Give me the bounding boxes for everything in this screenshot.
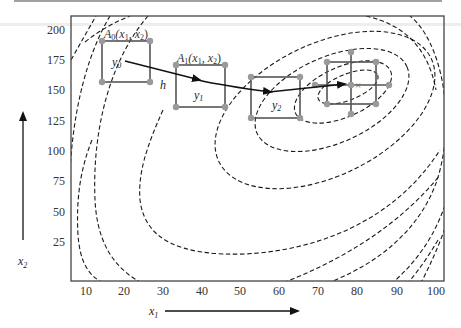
contour-4 [190, 0, 460, 221]
y-axis-ticks: 200 175 150 125 100 75 50 25 [47, 23, 65, 249]
x-axis-ticks: 10 20 30 40 50 60 70 80 90 100 [80, 284, 445, 298]
y-tick: 50 [53, 205, 65, 219]
contour-left [78, 140, 103, 283]
contour-mid-left [140, 110, 440, 254]
contour-3 [240, 27, 425, 172]
label-step-h: h [160, 78, 166, 92]
y-tick: 100 [47, 144, 65, 158]
contour-8 [420, 228, 445, 285]
contour-lower-right [277, 175, 440, 285]
y-tick: 25 [53, 235, 65, 249]
y-tick: 125 [47, 114, 65, 128]
x-tick: 100 [427, 284, 445, 298]
contour-9 [71, 16, 96, 60]
y-axis-label: x2 [17, 254, 27, 270]
y-tick: 200 [47, 23, 65, 37]
x-tick: 30 [157, 284, 169, 298]
x-tick: 80 [351, 284, 363, 298]
label-a0: A0(x1, x2) [103, 27, 148, 42]
x-tick: 40 [196, 284, 208, 298]
label-y2: y2 [271, 98, 281, 113]
contour-5 [95, 16, 446, 300]
y-tick: 75 [53, 174, 65, 188]
search-box-a3 [312, 49, 392, 117]
label-y1: y1 [193, 88, 203, 103]
contour-6 [69, 16, 445, 300]
contour-7 [85, 16, 438, 290]
x-tick: 70 [312, 284, 324, 298]
label-a1: A1(x1, x2) [176, 51, 221, 66]
x-tick: 20 [118, 284, 130, 298]
search-path [125, 61, 345, 92]
x-tick: 50 [234, 284, 246, 298]
y-tick: 150 [47, 83, 65, 97]
contour-lines [69, 0, 460, 300]
y-tick: 175 [47, 53, 65, 67]
x-tick: 60 [273, 284, 285, 298]
label-y0: y0 [111, 55, 121, 70]
x-axis-label: x1 [148, 304, 158, 320]
x-tick: 90 [391, 284, 403, 298]
scan-band [0, 23, 461, 26]
contour-diagram: 10 20 30 40 50 60 70 80 90 100 200 175 1… [0, 0, 461, 328]
x-tick: 10 [80, 284, 92, 298]
optimum-marker: × [355, 79, 361, 91]
